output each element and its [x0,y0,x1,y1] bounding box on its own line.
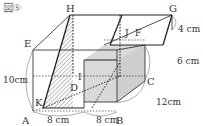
dim-label-height-lower: 6 cm [177,56,200,66]
shaded-block [84,45,145,102]
dim-label-height-upper: 4 cm [178,24,201,34]
vertex-label-E: E [24,38,31,49]
dim-label-AB-left: 8 cm [47,115,70,125]
vertex-label-J: J [124,28,129,38]
vertex-label-I: I [78,72,82,82]
figure-title: 図⑤ [4,3,21,13]
vertex-label-C: C [147,76,155,87]
vertex-label-F: F [135,28,141,38]
dim-label-BC: 12cm [156,97,181,107]
rectangular-prism-diagram: 図⑤ [0,0,203,126]
vertex-label-H: H [66,3,75,14]
svg-text:図⑤: 図⑤ [4,3,21,13]
vertex-label-K: K [35,97,43,108]
vertex-label-A: A [21,115,30,126]
vertex-label-D: D [70,82,78,93]
vertex-label-G: G [169,3,177,14]
dim-label-AE: 10cm [3,75,28,85]
dim-label-AB-right: 8 cm [96,115,119,125]
